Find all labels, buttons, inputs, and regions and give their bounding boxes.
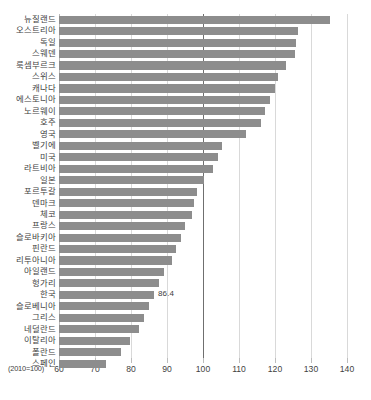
plot-area: 86.4 bbox=[59, 14, 347, 358]
category-label: 한국 bbox=[0, 289, 56, 300]
bar-row bbox=[59, 37, 347, 48]
category-label: 체코 bbox=[0, 209, 56, 220]
bar bbox=[59, 337, 130, 345]
category-label: 에스토니아 bbox=[0, 94, 56, 105]
bar-row bbox=[59, 232, 347, 243]
bar bbox=[59, 119, 261, 127]
category-label: 핀란드 bbox=[0, 243, 56, 254]
bar bbox=[59, 268, 164, 276]
category-label: 호주 bbox=[0, 117, 56, 128]
bar bbox=[59, 130, 246, 138]
category-label: 이탈리아 bbox=[0, 335, 56, 346]
category-label: 아일랜드 bbox=[0, 266, 56, 277]
category-label: 영국 bbox=[0, 129, 56, 140]
bar bbox=[59, 96, 270, 104]
category-label: 폴란드 bbox=[0, 347, 56, 358]
category-label: 뉴질랜드 bbox=[0, 14, 56, 25]
bar bbox=[59, 222, 185, 230]
chart-title bbox=[0, 0, 371, 5]
bar-row bbox=[59, 186, 347, 197]
category-label: 캐나다 bbox=[0, 83, 56, 94]
bar bbox=[59, 188, 197, 196]
bar-row bbox=[59, 25, 347, 36]
category-label: 미국 bbox=[0, 152, 56, 163]
category-label: 덴마크 bbox=[0, 198, 56, 209]
category-label: 헝가리 bbox=[0, 278, 56, 289]
bar-row bbox=[59, 324, 347, 335]
bar bbox=[59, 73, 278, 81]
category-label: 스위스 bbox=[0, 71, 56, 82]
bar-row bbox=[59, 301, 347, 312]
bar-row bbox=[59, 152, 347, 163]
bar bbox=[59, 314, 144, 322]
category-label: 벨기에 bbox=[0, 140, 56, 151]
bar bbox=[59, 360, 106, 368]
bar-row bbox=[59, 140, 347, 151]
bar-row bbox=[59, 106, 347, 117]
x-tick-mark bbox=[347, 358, 348, 363]
bar-row bbox=[59, 266, 347, 277]
category-label: 독일 bbox=[0, 37, 56, 48]
category-label: 노르웨이 bbox=[0, 106, 56, 117]
bar-row bbox=[59, 347, 347, 358]
bar bbox=[59, 234, 181, 242]
bar-row bbox=[59, 209, 347, 220]
bar bbox=[59, 61, 286, 69]
category-label: 포르투갈 bbox=[0, 186, 56, 197]
bar-row bbox=[59, 48, 347, 59]
bar-row: 86.4 bbox=[59, 289, 347, 300]
bar-row bbox=[59, 60, 347, 71]
bar-row bbox=[59, 312, 347, 323]
category-label: 슬로베니아 bbox=[0, 301, 56, 312]
bar-series: 86.4 bbox=[59, 14, 347, 370]
bar bbox=[59, 256, 172, 264]
category-label: 오스트리아 bbox=[0, 25, 56, 36]
bar-row bbox=[59, 14, 347, 25]
category-label: 라트비아 bbox=[0, 163, 56, 174]
bar bbox=[59, 291, 154, 299]
category-label: 스웨덴 bbox=[0, 48, 56, 59]
category-label: 프랑스 bbox=[0, 220, 56, 231]
bar-row bbox=[59, 243, 347, 254]
bar-row bbox=[59, 175, 347, 186]
bar-chart: 86.4 뉴질랜드오스트리아독일스웨덴룩셈부르크스위스캐나다에스토니아노르웨이호… bbox=[0, 0, 371, 400]
bar-row bbox=[59, 335, 347, 346]
bar bbox=[59, 107, 265, 115]
bar-row bbox=[59, 198, 347, 209]
bar-row bbox=[59, 358, 347, 369]
bar-row bbox=[59, 163, 347, 174]
category-label: 일본 bbox=[0, 175, 56, 186]
bar bbox=[59, 325, 139, 333]
bar bbox=[59, 211, 192, 219]
bar bbox=[59, 84, 275, 92]
category-label: 룩셈부르크 bbox=[0, 60, 56, 71]
bar-row bbox=[59, 220, 347, 231]
bar bbox=[59, 279, 159, 287]
bar bbox=[59, 245, 176, 253]
bar bbox=[59, 142, 222, 150]
bar bbox=[59, 165, 213, 173]
category-label: 네덜란드 bbox=[0, 324, 56, 335]
bar bbox=[59, 176, 204, 184]
bar-row bbox=[59, 83, 347, 94]
bar-row bbox=[59, 117, 347, 128]
bar bbox=[59, 16, 330, 24]
bar bbox=[59, 50, 295, 58]
category-label: 슬로바키아 bbox=[0, 232, 56, 243]
bar bbox=[59, 153, 218, 161]
bar-value-label: 86.4 bbox=[158, 289, 174, 298]
bar bbox=[59, 39, 296, 47]
bar bbox=[59, 199, 194, 207]
bar-row bbox=[59, 278, 347, 289]
bar-row bbox=[59, 255, 347, 266]
category-axis-labels: 뉴질랜드오스트리아독일스웨덴룩셈부르크스위스캐나다에스토니아노르웨이호주영국벨기… bbox=[0, 14, 56, 370]
bar bbox=[59, 302, 149, 310]
bar bbox=[59, 27, 298, 35]
category-label: 그리스 bbox=[0, 312, 56, 323]
bar-row bbox=[59, 94, 347, 105]
bar-row bbox=[59, 129, 347, 140]
x-axis-unit-note: (2010=100) bbox=[8, 364, 44, 373]
gridline-140 bbox=[347, 14, 348, 358]
bar bbox=[59, 348, 121, 356]
category-label: 리투아니아 bbox=[0, 255, 56, 266]
